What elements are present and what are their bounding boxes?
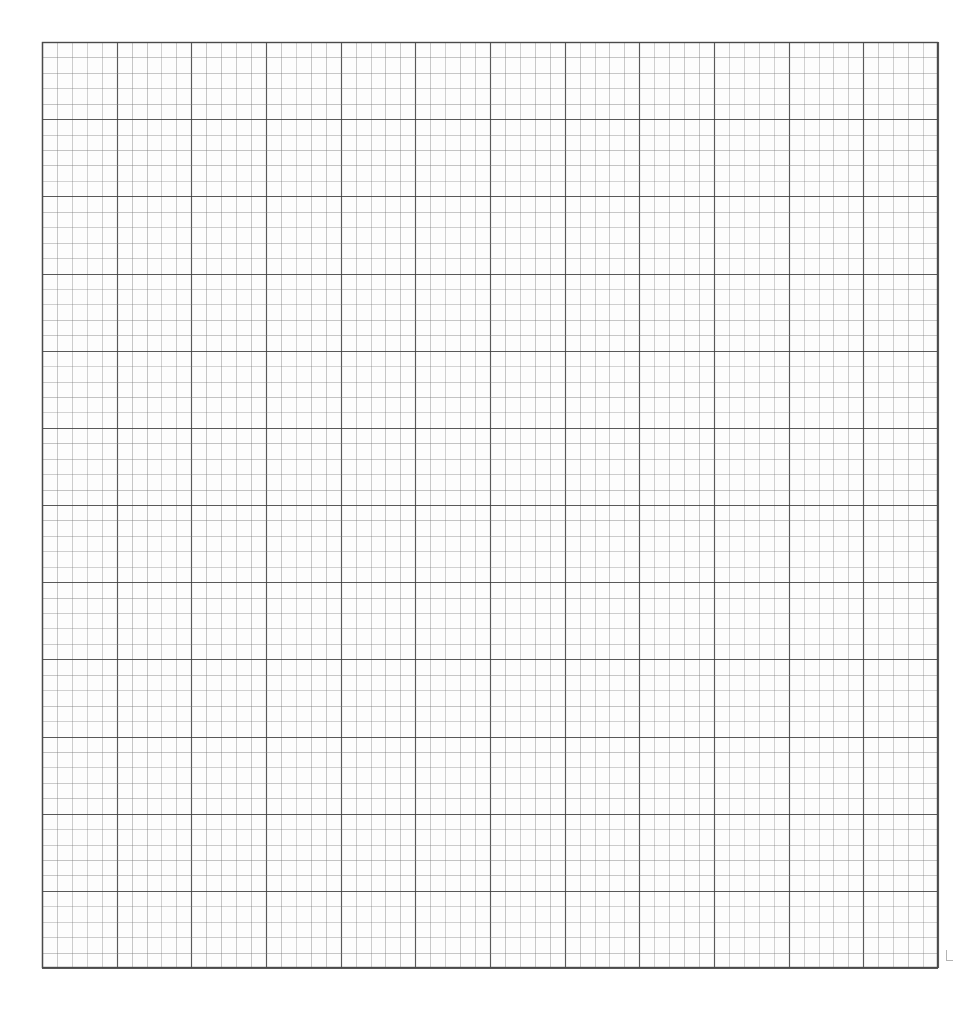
corner-registration-tick — [946, 950, 953, 961]
figure-root: Gridded symbol field plot on graph paper… — [0, 0, 965, 1017]
symbol-field-plot — [0, 0, 965, 1017]
